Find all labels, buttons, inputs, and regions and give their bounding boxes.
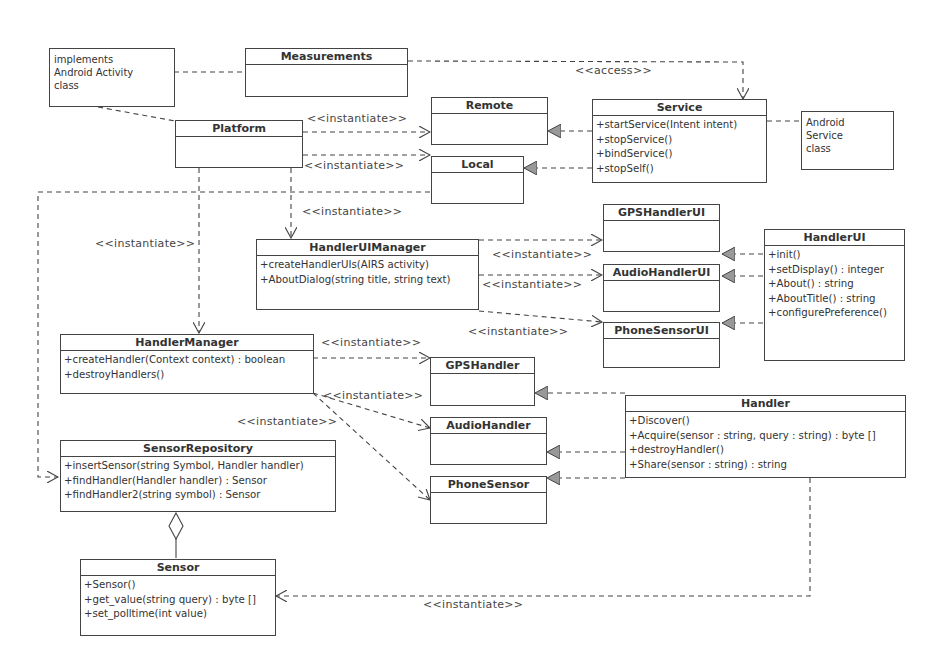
note-android-service: Android Service class — [801, 111, 894, 170]
operation: +insertSensor(string Symbol, Handler han… — [64, 459, 332, 474]
class-title: Local — [432, 157, 523, 173]
class-title: SensorRepository — [61, 441, 335, 457]
operation: +Acquire(sensor : string, query : string… — [629, 429, 902, 444]
operation: +get_value(string query) : byte [] — [84, 593, 272, 608]
operation: +findHandler(Handler handler) : Sensor — [64, 474, 332, 489]
class-gps-handler[interactable]: GPSHandler — [430, 357, 535, 406]
label-instantiate-phone: <<instantiate>> — [237, 415, 337, 428]
label-instantiate-remote: <<instantiate>> — [307, 112, 407, 125]
operations: +Sensor() +get_value(string query) : byt… — [81, 576, 275, 624]
operations: +insertSensor(string Symbol, Handler han… — [61, 457, 335, 505]
note-link-platform — [98, 107, 175, 121]
operations: +startService(Intent intent) +stopServic… — [593, 116, 766, 178]
label-instantiate-hm: <<instantiate>> — [95, 237, 195, 250]
class-title: Service — [593, 100, 766, 116]
class-platform[interactable]: Platform — [175, 120, 303, 168]
class-measurements[interactable]: Measurements — [245, 48, 408, 97]
class-phone-sensor-ui[interactable]: PhoneSensorUI — [603, 322, 720, 368]
operation: +AboutTitle() : string — [768, 292, 901, 307]
class-local[interactable]: Local — [431, 156, 524, 204]
class-handler[interactable]: Handler +Discover() +Acquire(sensor : st… — [625, 395, 906, 478]
operation: +Discover() — [629, 414, 902, 429]
class-title: Remote — [432, 98, 547, 114]
class-sensor[interactable]: Sensor +Sensor() +get_value(string query… — [80, 559, 276, 636]
class-handler-manager[interactable]: HandlerManager +createHandler(Context co… — [60, 334, 314, 394]
note-line: Service — [806, 129, 889, 142]
operation: +destroyHandlers() — [64, 368, 310, 383]
label-instantiate-sensor: <<instantiate>> — [423, 598, 523, 611]
note-line: class — [806, 142, 889, 155]
instantiate-huim-phoneui — [479, 311, 602, 322]
note-line: Android Activity — [54, 66, 170, 79]
note-line: class — [54, 79, 170, 92]
class-title: AudioHandler — [431, 418, 546, 434]
class-remote[interactable]: Remote — [431, 97, 548, 145]
note-line: Android — [806, 116, 889, 129]
label-instantiate-audio: <<instantiate>> — [323, 389, 423, 402]
class-title: Measurements — [246, 49, 407, 65]
class-title: PhoneSensor — [431, 477, 546, 493]
class-title: PhoneSensorUI — [604, 323, 719, 339]
class-handler-ui[interactable]: HandlerUI +init() +setDisplay() : intege… — [764, 229, 905, 361]
class-title: HandlerUIManager — [257, 240, 478, 256]
class-phone-sensor[interactable]: PhoneSensor — [430, 476, 547, 524]
class-title: HandlerManager — [61, 335, 313, 351]
operation: +init() — [768, 248, 901, 263]
class-sensor-repository[interactable]: SensorRepository +insertSensor(string Sy… — [60, 440, 336, 512]
operation: +Sensor() — [84, 578, 272, 593]
operation: +bindService() — [596, 147, 763, 162]
label-instantiate-local: <<instantiate>> — [304, 159, 404, 172]
operations: +createHandler(Context context) : boolea… — [61, 351, 313, 384]
label-access: <<access>> — [575, 64, 652, 77]
operation: +AboutDialog(string title, string text) — [260, 273, 475, 288]
operation: +Share(sensor : string) : string — [629, 458, 902, 473]
label-instantiate-huim: <<instantiate>> — [302, 205, 402, 218]
class-gps-handler-ui[interactable]: GPSHandlerUI — [603, 204, 720, 252]
label-instantiate-phoneui: <<instantiate>> — [468, 325, 568, 338]
operation: +stopService() — [596, 133, 763, 148]
class-service[interactable]: Service +startService(Intent intent) +st… — [592, 99, 767, 183]
operation: +findHandler2(string symbol) : Sensor — [64, 488, 332, 503]
class-handler-ui-manager[interactable]: HandlerUIManager +createHandlerUIs(AIRS … — [256, 239, 479, 310]
label-instantiate-gpsui: <<instantiate>> — [492, 248, 592, 261]
operation: +createHandlerUIs(AIRS activity) — [260, 258, 475, 273]
operations: +init() +setDisplay() : integer +About()… — [765, 246, 904, 323]
aggregation-repository-sensor — [169, 513, 183, 558]
operation: +setDisplay() : integer — [768, 263, 901, 278]
operation: +set_polltime(int value) — [84, 607, 272, 622]
class-title: GPSHandler — [431, 358, 534, 374]
operation: +About() : string — [768, 277, 901, 292]
class-audio-handler-ui[interactable]: AudioHandlerUI — [603, 264, 720, 312]
operation: +destroyHandler() — [629, 443, 902, 458]
class-title: Sensor — [81, 560, 275, 576]
class-title: Handler — [626, 396, 905, 412]
operations: +Discover() +Acquire(sensor : string, qu… — [626, 412, 905, 474]
operations: +createHandlerUIs(AIRS activity) +AboutD… — [257, 256, 478, 289]
operation: +configurePreference() — [768, 306, 901, 321]
note-line: implements — [54, 53, 170, 66]
class-title: GPSHandlerUI — [604, 205, 719, 221]
label-instantiate-gps: <<instantiate>> — [321, 336, 421, 349]
operation: +createHandler(Context context) : boolea… — [64, 353, 310, 368]
class-title: Platform — [176, 121, 302, 137]
class-title: HandlerUI — [765, 230, 904, 246]
note-android-activity: implements Android Activity class — [49, 48, 175, 107]
class-audio-handler[interactable]: AudioHandler — [430, 417, 547, 465]
operation: +startService(Intent intent) — [596, 118, 763, 133]
label-instantiate-audioui: <<instantiate>> — [482, 278, 582, 291]
class-title: AudioHandlerUI — [604, 265, 719, 281]
operation: +stopSelf() — [596, 162, 763, 177]
